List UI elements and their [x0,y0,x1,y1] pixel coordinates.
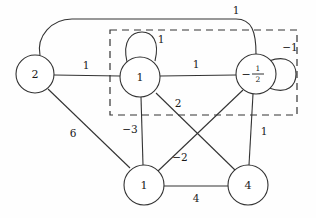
graph-figure: 2 1 − 1 2 1 4 1 1 1 1 −1 6 −3 2 −2 1 4 [0,0,316,218]
edge-label-one-to-half: 1 [193,58,200,70]
edge-label-four-bottom: 4 [193,192,200,204]
edge-1top-to-1bottom [141,97,143,165]
edge-label-six: 6 [70,127,77,139]
edge-2-to-1bottom [48,89,130,168]
graph-canvas: 2 1 − 1 2 1 4 1 1 1 1 −1 6 −3 2 −2 1 4 [0,0,316,218]
edge-label-minus-two: −2 [172,151,187,163]
edge-label-two-to-one: 1 [83,59,90,71]
edge-2-to-half-curve [39,19,256,56]
edge-label-two: 2 [175,97,182,109]
node-label-fraction-denominator: 2 [256,75,261,84]
edge-label-top-curve: 1 [233,4,240,16]
node-label-one-bottom: 1 [141,179,148,192]
edge-label-self-loop-top: 1 [158,33,165,45]
node-label-minus-sign: − [241,68,250,81]
edge-1top-to-half [160,75,236,76]
edge-label-self-loop-right: −1 [282,41,297,53]
node-label-one-top: 1 [137,71,144,84]
edge-half-to-4 [249,94,253,165]
node-label-fraction-numerator: 1 [256,64,261,73]
edge-label-one-vertical: 1 [261,125,268,137]
node-label-two: 2 [32,68,39,81]
node-label-four: 4 [245,179,252,192]
edge-1top-to-4 [156,93,235,170]
edge-label-minus-three: −3 [122,123,137,135]
edge-half-to-1bottom [158,90,243,171]
